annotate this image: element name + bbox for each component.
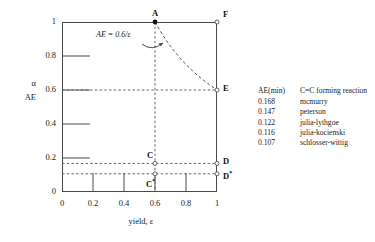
reference-lines	[62, 22, 217, 192]
legend-reaction-name: julia-kocienski	[300, 128, 367, 138]
legend-reaction-name: mcmurry	[300, 97, 367, 107]
y-tick-label-0.2: 0.2	[30, 153, 56, 162]
legend-reaction-name: julia-lythgoe	[300, 118, 367, 128]
legend-header-ae: AE(min)	[258, 86, 300, 97]
point-label-A: A	[152, 9, 158, 18]
y-tick-label-0.6: 0.6	[30, 85, 56, 94]
x-tick-label-0.6: 0.6	[143, 199, 167, 208]
legend-row: 0.147peterson	[258, 107, 367, 117]
x-tick-label-0.2: 0.2	[81, 199, 105, 208]
x-axis-ticks	[93, 173, 186, 192]
point-label-E: E	[223, 84, 229, 93]
legend-ae-value: 0.168	[258, 97, 300, 107]
point-label-C: C	[147, 151, 153, 160]
legend-head: AE(min) C=C forming reaction	[258, 86, 367, 97]
x-tick-label-0: 0	[50, 199, 74, 208]
point-label-D: D	[223, 157, 229, 166]
x-tick-label-0.4: 0.4	[112, 199, 136, 208]
curve-equation-annotation: AE = 0.6/ε	[96, 30, 131, 39]
legend-table-element: AE(min) C=C forming reaction 0.168mcmurr…	[258, 86, 367, 148]
chart-figure: α AE yield, ε AE = 0.6/ε 00.20.40.60.81 …	[0, 0, 375, 242]
legend-header-reaction: C=C forming reaction	[300, 86, 367, 97]
y-axis-ticks	[62, 56, 90, 158]
legend-reaction-name: schlosser-wittig	[300, 138, 367, 148]
y-tick-label-0.8: 0.8	[30, 51, 56, 60]
legend-row: 0.168mcmurry	[258, 97, 367, 107]
legend-body: 0.168mcmurry0.147peterson0.122julia-lyth…	[258, 97, 367, 148]
legend-reaction-name: peterson	[300, 107, 367, 117]
legend-header-row: AE(min) C=C forming reaction	[258, 86, 367, 97]
x-tick-label-1: 1	[205, 199, 229, 208]
legend-ae-value: 0.107	[258, 138, 300, 148]
legend-row: 0.116julia-kocienski	[258, 128, 367, 138]
y-tick-label-0.4: 0.4	[30, 119, 56, 128]
annotation-arrow	[142, 43, 163, 48]
x-tick-label-0.8: 0.8	[174, 199, 198, 208]
y-tick-label-1: 1	[30, 17, 56, 26]
x-axis-label: yield, ε	[96, 216, 186, 226]
legend-ae-value: 0.116	[258, 128, 300, 138]
point-label-F: F	[223, 10, 228, 19]
legend-row: 0.122julia-lythgoe	[258, 118, 367, 128]
legend-ae-value: 0.147	[258, 107, 300, 117]
point-label-C-star: C*	[146, 177, 155, 189]
y-tick-label-0: 0	[30, 187, 56, 196]
point-label-D-star: D*	[223, 169, 232, 181]
legend-table: AE(min) C=C forming reaction 0.168mcmurr…	[258, 86, 367, 148]
legend-ae-value: 0.122	[258, 118, 300, 128]
curve-ae-hyperbola	[155, 22, 217, 90]
legend-row: 0.107schlosser-wittig	[258, 138, 367, 148]
